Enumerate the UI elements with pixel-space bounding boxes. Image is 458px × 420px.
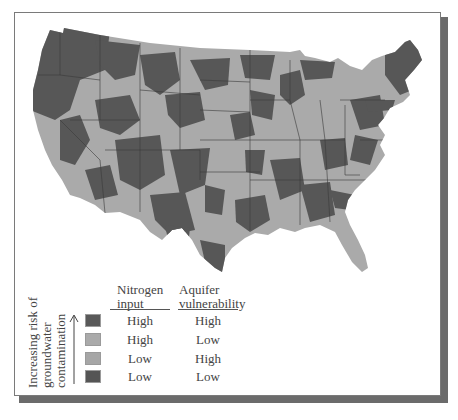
legend-row-2-aquifer: Low	[178, 333, 238, 347]
legend-swatch-high-low	[85, 333, 101, 346]
legend-swatch-high-high	[85, 314, 101, 327]
legend-row-2-nitrogen: High	[110, 333, 170, 347]
nitrogen-header-rule	[110, 309, 170, 310]
nitrogen-header-line-1: Nitrogen	[117, 283, 163, 297]
legend-row-4-aquifer: Low	[178, 370, 238, 384]
legend-swatch-low-low	[85, 370, 101, 383]
aquifer-header-line-1: Aquifer	[179, 283, 245, 297]
legend-row-3-aquifer: High	[178, 352, 238, 366]
aquifer-header-rule	[178, 309, 238, 310]
legend-row-3-nitrogen: Low	[110, 352, 170, 366]
aquifer-header: Aquifer vulnerability	[179, 283, 245, 311]
legend-row-1-nitrogen: High	[110, 314, 170, 328]
nitrogen-header: Nitrogen input	[117, 283, 163, 311]
legend-row-1-aquifer: High	[178, 314, 238, 328]
legend-swatch-low-high	[85, 352, 101, 365]
legend-row-4-nitrogen: Low	[110, 370, 170, 384]
